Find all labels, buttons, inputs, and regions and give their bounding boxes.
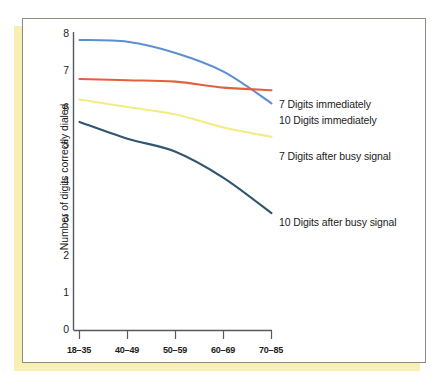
series-paths [80,40,272,213]
figure-frame: Number of digits correctly dialed 8 7 6 … [22,18,426,363]
line-series-10-digits-immediately [80,40,272,103]
chart-svg [23,19,427,364]
chart-page: Number of digits correctly dialed 8 7 6 … [0,0,438,385]
line-series-10-digits-after-busy [80,122,272,213]
line-series-7-digits-immediately [80,79,272,90]
axes [74,32,273,339]
plot-area: Number of digits correctly dialed 8 7 6 … [23,19,427,364]
